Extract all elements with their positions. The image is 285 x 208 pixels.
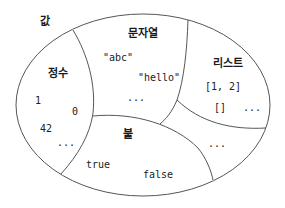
integer-ellipsis: ... [57,138,75,148]
integer-string-boundary [61,30,94,174]
list-label: 리스트 [213,58,243,69]
boolean-example: true [86,160,110,170]
string-label: 문자열 [128,28,158,39]
string-example: "abc" [103,53,133,63]
integer-example: 0 [72,107,78,117]
boolean-example: false [143,170,173,180]
integer-example: 42 [40,124,52,134]
boolean-label: 불 [123,129,133,140]
string-ellipsis: ... [127,93,145,103]
other-ellipsis: ... [208,139,226,149]
integer-example: 1 [35,96,41,106]
integer-label: 정수 [48,68,68,79]
string-example: "hello" [138,73,180,83]
list-example: [1, 2] [205,82,241,92]
values-title: 값 [40,16,50,27]
list-example: [] [214,103,226,113]
list-ellipsis: ... [243,103,261,113]
